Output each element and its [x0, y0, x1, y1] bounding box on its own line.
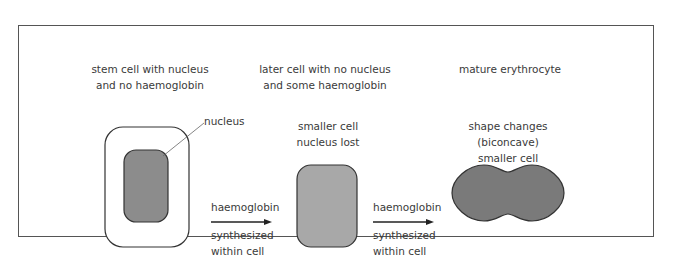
stem-cell-nucleus [124, 150, 168, 222]
stage-2-description-line-1: smaller cell [280, 118, 376, 134]
nucleus-callout-label: nucleus [204, 113, 245, 129]
stage-1-heading-line-2: and no haemoglobin [80, 77, 220, 93]
stage-3-description-line-1: shape changes [455, 118, 561, 134]
later-cell [297, 165, 357, 247]
stage-1-heading-line-1: stem cell with nucleus [80, 61, 220, 77]
transition-1-above: haemoglobin [211, 199, 279, 215]
transition-1-below-line-1: synthesized [211, 227, 274, 243]
transition-1-below: synthesized within cell [211, 227, 274, 259]
stage-2-description-line-2: nucleus lost [280, 134, 376, 150]
stage-3-description-line-2: (biconcave) [455, 134, 561, 150]
transition-1-below-line-2: within cell [211, 243, 274, 259]
transition-2-above: haemoglobin [373, 199, 441, 215]
stage-2-heading-line-2: and some haemoglobin [250, 77, 400, 93]
stage-1-heading: stem cell with nucleus and no haemoglobi… [80, 61, 220, 93]
arrowhead-icon [426, 219, 434, 225]
stage-3-heading-line-1: mature erythrocyte [440, 61, 580, 77]
stage-3-heading: mature erythrocyte [440, 61, 580, 77]
arrowhead-icon [264, 219, 272, 225]
mature-erythrocyte [452, 165, 564, 221]
stage-2-description: smaller cell nucleus lost [280, 118, 376, 150]
stage-2-heading-line-1: later cell with no nucleus [250, 61, 400, 77]
stage-3-description: shape changes (biconcave) smaller cell [455, 118, 561, 166]
stage-2-heading: later cell with no nucleus and some haem… [250, 61, 400, 93]
transition-2-below-line-1: synthesized [373, 227, 436, 243]
transition-2-below: synthesized within cell [373, 227, 436, 259]
stage-3-description-line-3: smaller cell [455, 150, 561, 166]
transition-2-below-line-2: within cell [373, 243, 436, 259]
